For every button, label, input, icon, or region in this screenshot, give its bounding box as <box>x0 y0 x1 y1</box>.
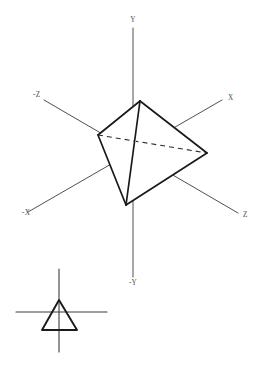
inset-group <box>16 269 107 352</box>
axis-label-y-positive: Y <box>130 16 136 24</box>
axis-label-x-positive: X <box>228 94 234 102</box>
axis-label-z-positive: Z <box>243 211 248 219</box>
diagram-canvas: Y -Y X -X Z -Z <box>0 0 264 383</box>
axis-label-x-negative: -X <box>22 209 31 217</box>
axis-label-z-negative: -Z <box>33 91 40 99</box>
figure-root: Y -Y X -X Z -Z <box>0 0 264 383</box>
axis-label-y-negative: -Y <box>129 279 138 287</box>
tetrahedron-group <box>98 101 207 205</box>
